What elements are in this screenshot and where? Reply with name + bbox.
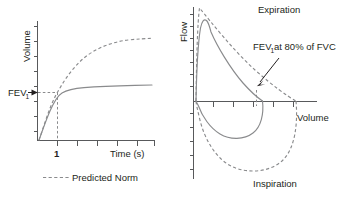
left-predicted-norm-curve [39, 38, 152, 140]
right-y-axis-ticks [190, 15, 194, 170]
right-expiration-label: Expiration [258, 4, 300, 15]
left-y-axis-ticks [34, 27, 38, 132]
right-fev1-annotation-suffix: at 80% of FVC [274, 41, 336, 52]
left-x-axis-ticks [58, 141, 155, 146]
right-fev1-annotation-prefix: FEV [253, 41, 272, 52]
flow-volume-svg: Flow [175, 0, 353, 198]
right-fev1-callout-arrow-icon [257, 58, 279, 86]
volume-time-chart-panel: Volume [0, 0, 178, 198]
flow-volume-chart-panel: Flow [175, 0, 353, 198]
spirometry-figure: Volume [0, 0, 353, 198]
right-y-axis-label: Flow [178, 22, 189, 42]
right-x-axis-label: Volume [297, 112, 329, 123]
left-fev1-arrow-icon [28, 89, 38, 95]
left-fev1-label: FEV [8, 87, 27, 98]
right-x-axis-ticks [214, 102, 294, 107]
right-inspiration-label: Inspiration [253, 178, 297, 189]
right-patient-inspiratory-limb [196, 101, 263, 138]
left-legend: Predicted Norm [43, 172, 138, 183]
left-y-axis-label: Volume [21, 30, 32, 62]
left-x-tick-label-1: 1 [54, 148, 60, 159]
right-patient-expiratory-limb [196, 20, 263, 101]
left-fev1-label-subscript: 1 [26, 93, 30, 100]
left-x-axis-label: Time (s) [110, 148, 144, 159]
legend-label-predicted-norm: Predicted Norm [72, 172, 138, 183]
volume-time-svg: Volume [0, 0, 178, 198]
left-patient-curve [39, 85, 152, 140]
right-predicted-inspiratory-limb [196, 101, 297, 171]
